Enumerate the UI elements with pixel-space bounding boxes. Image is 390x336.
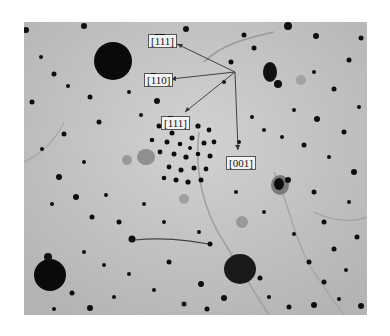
micrograph-svg [24, 22, 367, 315]
direction-label-001: [001] [226, 156, 256, 170]
direction-label-m1m11: [111] [148, 34, 177, 48]
direction-label-m110: [110] [144, 73, 173, 87]
direction-label-m111: [111] [161, 116, 190, 130]
micrograph-image [24, 22, 367, 315]
